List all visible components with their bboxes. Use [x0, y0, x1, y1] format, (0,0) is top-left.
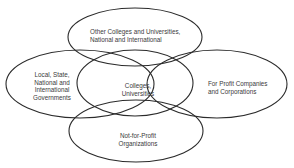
- ellipse-bottom: [69, 100, 203, 162]
- label-for-profit: For Profit Companies and Corporations: [208, 80, 268, 95]
- label-other-colleges: Other Colleges and Universities, Nationa…: [90, 28, 180, 43]
- label-colleges-universities: Colleges, Universities: [108, 82, 168, 97]
- label-not-for-profit: Not-for-Profit Organizations: [108, 132, 168, 147]
- label-governments: Local, State, National and International…: [24, 71, 80, 101]
